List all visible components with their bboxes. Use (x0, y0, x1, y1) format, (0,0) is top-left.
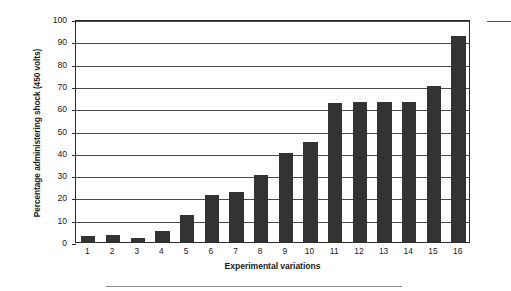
bar (180, 215, 194, 242)
y-axis-tick-label: 30 (33, 172, 67, 181)
x-axis-title: Experimental variations (75, 261, 470, 271)
x-axis-tick-label: 1 (85, 246, 90, 256)
plot-area (75, 20, 470, 243)
y-axis-tick-label: 90 (33, 38, 67, 47)
bar (155, 231, 169, 242)
x-axis-tick-label: 6 (208, 246, 213, 256)
y-axis-tick-label: 60 (33, 105, 67, 114)
bar (303, 142, 317, 242)
x-axis-tick-label: 3 (134, 246, 139, 256)
y-axis-tick-label: 10 (33, 216, 67, 225)
bar (229, 192, 243, 242)
x-axis-tick-label: 13 (379, 246, 388, 256)
y-axis-tick-mark (72, 244, 76, 245)
bars-layer (76, 21, 469, 242)
bar (328, 103, 342, 242)
x-axis-tick-label: 16 (453, 246, 462, 256)
y-axis-tick-label-group: 0102030405060708090100 (33, 20, 67, 243)
y-axis-tick-label: 50 (33, 127, 67, 136)
y-axis-tick-label: 100 (33, 16, 67, 25)
y-axis-tick-label: 20 (33, 194, 67, 203)
y-axis-tick-label: 80 (33, 60, 67, 69)
bar (254, 175, 268, 242)
y-axis-tick-label: 40 (33, 150, 67, 159)
x-axis-tick-label: 5 (184, 246, 189, 256)
x-axis-tick-label: 14 (404, 246, 413, 256)
bar (402, 102, 416, 242)
bar (353, 102, 367, 242)
bar (106, 235, 120, 242)
x-axis-tick-label: 8 (258, 246, 263, 256)
bar-chart-figure: Percentage administering shock (450 volt… (0, 0, 511, 291)
bar (205, 195, 219, 242)
x-axis-tick-label: 10 (305, 246, 314, 256)
bottom-divider-rule (106, 286, 402, 287)
x-axis-tick-label: 9 (283, 246, 288, 256)
bar (377, 102, 391, 242)
x-axis-tick-label: 2 (110, 246, 115, 256)
bar (81, 236, 95, 242)
x-axis-tick-label: 11 (330, 246, 339, 256)
x-axis-tick-label: 7 (233, 246, 238, 256)
x-axis-tick-label-group: 12345678910111213141516 (75, 246, 470, 260)
top-right-rule (487, 21, 511, 22)
bar (131, 238, 145, 242)
x-axis-tick-label: 15 (428, 246, 437, 256)
y-axis-tick-label: 0 (33, 239, 67, 248)
y-axis-tick-label: 70 (33, 83, 67, 92)
x-axis-tick-label: 12 (354, 246, 363, 256)
bar (279, 153, 293, 242)
x-axis-tick-label: 4 (159, 246, 164, 256)
bar (451, 36, 465, 242)
bar (427, 86, 441, 242)
